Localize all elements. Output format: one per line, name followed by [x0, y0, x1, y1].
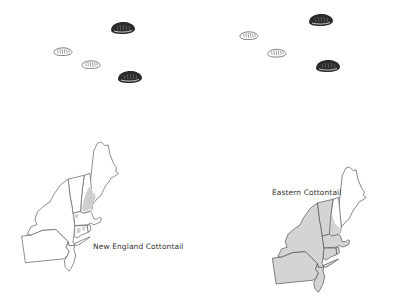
state-massachusetts: [322, 234, 350, 248]
long-island: [323, 259, 339, 267]
panel-eastern-cottontail: Eastern Cottontail: [204, 0, 408, 302]
long-island: [74, 237, 90, 246]
map-new-england-cottontail: [0, 0, 204, 302]
state-massachusetts: [73, 211, 102, 225]
state-connecticut: [323, 248, 337, 260]
state-maine: [339, 167, 367, 227]
panel-new-england-cottontail: New England Cottontail: [0, 0, 204, 302]
map-eastern-cottontail: [204, 0, 408, 302]
state-connecticut: [74, 226, 88, 238]
species-label: New England Cottontail: [93, 242, 184, 251]
species-label: Eastern Cottontail: [272, 188, 341, 197]
